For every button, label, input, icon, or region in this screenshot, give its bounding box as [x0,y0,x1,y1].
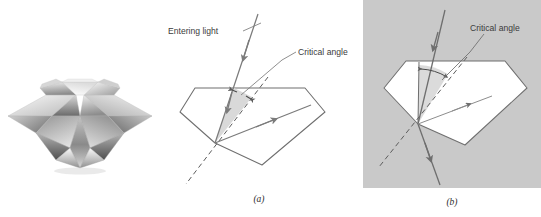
panel-a-caption: (a) [253,194,264,205]
optics-figure: Entering light Critical angle (a) Critic… [0,0,541,217]
panel-b-caption: (b) [446,197,457,208]
panel-b: Critical angle (b) [363,0,541,208]
panel-a-critical-angle-label: Critical angle [298,47,348,57]
panel-a-entering-light-label: Entering light [168,26,219,36]
diamond-shadow [54,168,106,175]
diamond-facet-table-top [62,79,98,82]
panel-b-critical-angle-label: Critical angle [470,23,520,33]
